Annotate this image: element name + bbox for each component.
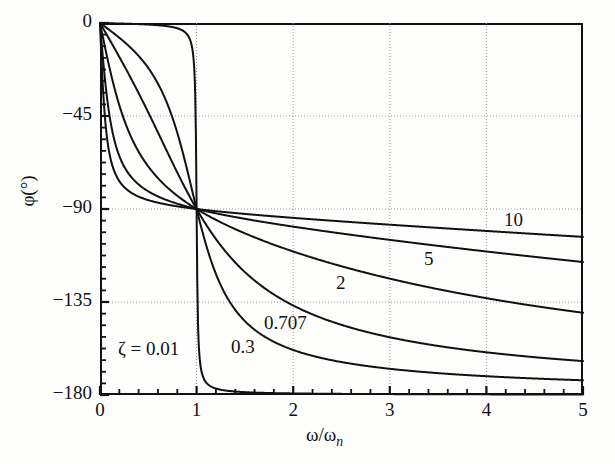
- figure-canvas: φ(°) 0−45−90−135−180 012345 ζ = 0.010.30…: [0, 0, 615, 464]
- curve-zeta-2: [100, 23, 583, 313]
- curve-label-zeta-03: 0.3: [231, 336, 255, 358]
- x-axis-title-subscript: n: [336, 434, 343, 449]
- plot-graphics: [0, 0, 615, 464]
- x-tick-label-4: 4: [466, 399, 506, 421]
- x-tick-label-3: 3: [370, 399, 410, 421]
- x-tick-label-5: 5: [563, 399, 603, 421]
- curve-label-zeta-5: 5: [424, 248, 434, 270]
- curve-label-zeta-0707: 0.707: [264, 312, 307, 334]
- curve-label-zeta-10: 10: [504, 209, 523, 231]
- curve-label-zeta-001: ζ = 0.01: [118, 338, 179, 360]
- x-axis-title: ω/ωn: [306, 424, 343, 450]
- x-tick-label-2: 2: [273, 399, 313, 421]
- x-tick-label-0: 0: [80, 399, 120, 421]
- y-tick-label-2: −90: [32, 196, 92, 218]
- y-tick-label-0: 0: [32, 10, 92, 32]
- y-tick-label-1: −45: [32, 103, 92, 125]
- curve-zeta-10: [100, 23, 583, 237]
- y-tick-label-3: −135: [32, 289, 92, 311]
- curve-label-zeta-2: 2: [336, 272, 346, 294]
- x-tick-label-1: 1: [177, 399, 217, 421]
